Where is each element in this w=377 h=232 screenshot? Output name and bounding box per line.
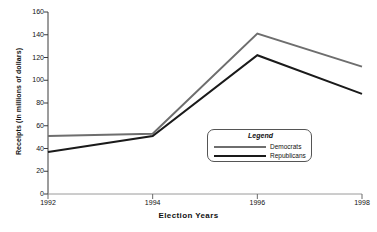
y-tick-marks <box>44 12 48 194</box>
legend-swatch-icon <box>214 146 266 148</box>
legend-swatch-icon <box>214 155 266 157</box>
series-line-republicans <box>48 55 362 152</box>
line-chart: Receipts (In millions of dollars) 0 20 4… <box>0 0 377 232</box>
x-tick-label: 1994 <box>145 199 161 206</box>
plot-area <box>0 0 377 232</box>
legend-title: Legend <box>208 132 313 139</box>
legend-label: Democrats <box>270 143 301 150</box>
x-tick-label: 1996 <box>250 199 266 206</box>
x-axis-title: Election Years <box>0 211 377 220</box>
legend-item-democrats: Democrats <box>214 142 310 151</box>
x-tick-marks <box>48 194 362 199</box>
x-tick-label: 1998 <box>354 199 370 206</box>
x-tick-label: 1992 <box>40 199 56 206</box>
legend: Legend Democrats Republicans <box>207 129 312 162</box>
legend-item-republicans: Republicans <box>214 151 310 160</box>
legend-label: Republicans <box>270 152 306 159</box>
series-line-democrats <box>48 34 362 136</box>
